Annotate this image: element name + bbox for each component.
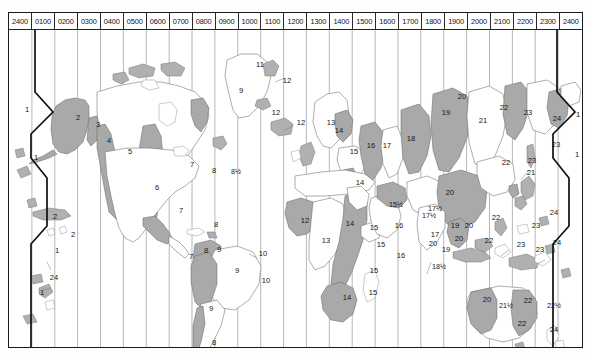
zone-label-iceland: 12 [272, 109, 280, 117]
hour-label-0900-9: 0900 [216, 13, 239, 29]
zone-label-marshall: 24 [550, 209, 558, 217]
hour-label-2000-20: 2000 [468, 13, 491, 29]
zone-label-indochina: 19 [451, 222, 459, 230]
zone-label-falkland: 8 [212, 339, 216, 347]
hour-label-2400-24: 2400 [560, 13, 582, 29]
zone-label-canada-prairie: 5 [128, 148, 132, 156]
hour-label-1300-13: 1300 [307, 13, 330, 29]
zone-label-malaysia: 20 [465, 222, 473, 230]
zone-label-egypt: 14 [356, 179, 364, 187]
zone-label-new-guinea: 23 [517, 241, 525, 249]
zone-label-argentina: 9 [209, 305, 213, 313]
zone-label-bering-west: 1 [25, 106, 29, 114]
zone-label-samoa: 1 [55, 247, 59, 255]
zone-label-yakutsk: 22 [500, 104, 508, 112]
zone-label-greenland-east: 12 [283, 77, 291, 85]
pacific-islands-west [15, 148, 71, 324]
hour-label-0500-5: 0500 [124, 13, 147, 29]
zone-label-bolivia: 8 [204, 247, 208, 255]
zone-label-hawaii: 2 [53, 213, 57, 221]
zone-label-horn: 15 [370, 224, 378, 232]
hour-label-1700-17: 1700 [399, 13, 422, 29]
africa [285, 186, 381, 322]
zone-label-sumatra: 19 [442, 246, 450, 254]
zone-label-arabia: 16 [395, 222, 403, 230]
north-america [29, 62, 227, 258]
zone-label-west-australia: 20 [483, 296, 491, 304]
zone-label-irkutsk: 21 [479, 117, 487, 125]
hour-label-1600-16: 1600 [376, 13, 399, 29]
hour-label-1900-19: 1900 [445, 13, 468, 29]
zone-label-atlantic-isle: 10 [262, 277, 270, 285]
hour-label-1100-11: 1100 [261, 13, 284, 29]
south-america [191, 240, 261, 347]
zone-label-pacific-sw: 1 [40, 289, 44, 297]
hour-label-1200-12: 1200 [284, 13, 307, 29]
hour-label-0400-4: 0400 [101, 13, 124, 29]
zone-label-volga: 17 [383, 142, 391, 150]
zone-label-faroe: 12 [297, 119, 305, 127]
zone-label-venezuela-n: 8 [214, 221, 218, 229]
zone-label-south-africa: 14 [343, 294, 351, 302]
zone-label-aleutians: 1 [34, 154, 38, 162]
zone-label-west-siberia: 19 [442, 109, 450, 117]
hour-label-2300-23: 2300 [537, 13, 560, 29]
zone-label-brazil-east: 10 [259, 250, 267, 258]
zone-label-amur: 22 [502, 159, 510, 167]
zone-label-alaska: 2 [76, 114, 80, 122]
hour-label-2100-21: 2100 [491, 13, 514, 29]
map-frame: 2400010002000300040005000600070008000900… [8, 12, 583, 348]
zone-label-tasmania: 22 [518, 320, 526, 328]
zone-label-newfoundland: 8½ [231, 168, 241, 175]
hour-label-0200-2: 0200 [55, 13, 78, 29]
zone-label-india-upper: 17½ [428, 205, 442, 212]
zone-label-india: 17½ [422, 212, 436, 219]
zone-label-guyana: 9 [217, 246, 221, 254]
zone-label-sulawesi: 22 [485, 237, 493, 245]
zone-label-china-north: 20 [446, 189, 454, 197]
zone-label-brazil: 9 [235, 267, 239, 275]
zone-label-iran-w: 15½ [389, 201, 403, 208]
zone-label-gulf: 17 [431, 231, 439, 239]
zone-label-seychelles: 16 [397, 252, 405, 260]
zone-label-moscow: 16 [367, 142, 375, 150]
zone-label-micronesia: 23 [532, 222, 540, 230]
zone-label-philippines: 22 [492, 214, 500, 222]
zone-label-norfolk: 22½ [547, 302, 561, 309]
zone-label-baltic: 15 [350, 148, 358, 156]
zone-label-bengal: 20 [429, 240, 437, 248]
zone-label-sakhalin: 23 [528, 157, 536, 165]
zone-label-greenland-west: 11 [256, 61, 264, 69]
zone-label-kuril: 23 [552, 141, 560, 149]
zone-label-east-africa: 14 [346, 220, 354, 228]
zone-label-west-africa: 12 [301, 217, 309, 225]
zone-label-cocos: 18½ [432, 263, 446, 270]
hour-label-2200-22: 2200 [514, 13, 537, 29]
zone-label-madagascar-n: 15 [370, 267, 378, 275]
zone-label-central-us-mexico: 6 [155, 184, 159, 192]
hour-label-0800-8: 0800 [193, 13, 216, 29]
hour-label-2400-0: 2400 [9, 13, 32, 29]
zone-label-central-africa: 13 [322, 237, 330, 245]
zone-label-madagascar-s: 15 [369, 289, 377, 297]
zone-label-pacific-nw: 4 [107, 137, 111, 145]
zone-label-dateline-east-low: 1 [575, 151, 579, 159]
zone-label-east-australia: 22 [524, 297, 532, 305]
hour-label-0100-1: 0100 [32, 13, 55, 29]
zone-label-borneo: 20 [455, 235, 463, 243]
zone-label-dateline-east-top: 1 [576, 111, 580, 119]
hour-label-0700-7: 0700 [170, 13, 193, 29]
hour-label-1800-18: 1800 [422, 13, 445, 29]
zone-label-magadan: 23 [524, 109, 532, 117]
zone-label-solomon: 23 [536, 246, 544, 254]
zone-label-eastern-us: 7 [190, 161, 194, 169]
hour-label-0600-6: 0600 [147, 13, 170, 29]
zone-label-krasnoyarsk: 20 [458, 93, 466, 101]
map-body: 1123456788½91112121213141516171819202122… [9, 30, 582, 347]
hour-label-1400-14: 1400 [330, 13, 353, 29]
hour-label-header: 2400010002000300040005000600070008000900… [9, 13, 582, 30]
world-map-graphic [9, 30, 581, 347]
zone-label-panama: 7 [179, 207, 183, 215]
zone-label-north-atlantic: 9 [239, 87, 243, 95]
zone-label-urals: 18 [407, 135, 415, 143]
